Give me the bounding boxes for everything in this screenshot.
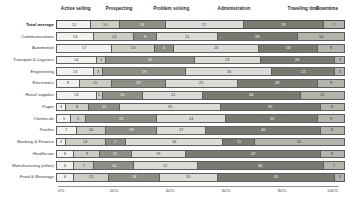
bar-segment-prospecting: 14 (94, 33, 134, 40)
legend-label-downtime: Downtime (316, 6, 338, 12)
segment-value: 2 (99, 93, 101, 97)
bar-segment-traveling-time: 28 (238, 80, 318, 87)
segment-value: 18 (132, 175, 136, 179)
segment-value: 16 (319, 35, 323, 39)
bar-segment-prospecting: 9 (74, 151, 100, 158)
bar-segment-downtime: 15 (301, 92, 344, 99)
bar-segment-prospecting: 12 (74, 174, 108, 181)
chart-row: Automotive1713626188 (0, 42, 345, 54)
bar-segment-active-selling: 17 (57, 45, 112, 52)
x-axis-tick: 60% (222, 188, 231, 193)
bar-segment-traveling-time: 26 (261, 57, 336, 64)
bar-segment-downtime: 8 (321, 127, 344, 134)
bar-segment-administration: 21 (157, 33, 217, 40)
segment-value: 16 (141, 23, 145, 27)
stacked-bar: 381135358 (56, 103, 345, 112)
segment-value: 23 (225, 58, 229, 62)
chart-row: Communications13148212816 (0, 31, 345, 43)
segment-value: 8 (76, 105, 78, 109)
stacked-bar: 552524329 (56, 114, 345, 123)
bar-segment-downtime: 9 (318, 115, 344, 122)
segment-value: 35 (268, 105, 272, 109)
bar-segment-traveling-time: 44 (198, 162, 324, 169)
segment-value: 14 (112, 164, 116, 168)
segment-value: 17 (82, 46, 86, 50)
x-axis-tick: 40% (166, 188, 175, 193)
chart-row: Paper381135358 (0, 101, 345, 113)
segment-value: 14 (75, 58, 79, 62)
bar-segment-administration: 26 (174, 45, 259, 52)
chart-row: Healthcare691119478 (0, 148, 345, 160)
segment-value: 7 (333, 23, 335, 27)
row-label-transport-logistics: Transport & Logistics (0, 57, 56, 63)
legend-label-problem-solving: Problem solving (153, 6, 189, 12)
bar-segment-downtime: 8 (321, 151, 344, 158)
bar-segment-prospecting: 7 (74, 162, 94, 169)
bar-segment-problem-solving: 7 (106, 139, 126, 146)
stacked-bar: 691119478 (56, 150, 345, 159)
bar-segment-administration: 25 (166, 80, 238, 87)
segment-value: 19 (136, 82, 140, 86)
segment-value: 7 (83, 164, 85, 168)
bar-segment-downtime: 3 (335, 68, 344, 75)
row-label-automotive: Automotive (0, 45, 56, 51)
x-axis: 0%20%40%60%80%100% (58, 186, 338, 198)
bar-segment-problem-solving: 31 (106, 57, 195, 64)
bar-segment-downtime: 16 (298, 33, 344, 40)
segment-value: 7 (114, 140, 116, 144)
legend-label-prospecting: Prospecting (106, 6, 133, 12)
segment-value: 41 (274, 175, 278, 179)
segment-value: 24 (189, 117, 193, 121)
chart-row: Manufacturing (other)671422447 (0, 160, 345, 172)
bar-segment-administration: 30 (186, 68, 272, 75)
stacked-bar: 1713626188 (56, 44, 345, 53)
bar-segment-traveling-time: 28 (244, 21, 324, 28)
segment-value: 26 (214, 46, 218, 50)
stacked-bar: 13148212816 (56, 32, 345, 41)
bar-segment-downtime: 8 (321, 104, 344, 111)
chart-row: Food & Beverage6121820413 (0, 172, 345, 184)
bar-segment-problem-solving: 11 (89, 104, 121, 111)
stacked-bar-chart: Active sellingProspectingProblem solving… (0, 0, 345, 203)
row-label-engineering: Engineering (0, 69, 56, 75)
row-label-banking-finance: Banking & Finance (0, 139, 56, 145)
bar-segment-prospecting: 8 (66, 104, 89, 111)
chart-row: Retail supplies14214213415 (0, 89, 345, 101)
segment-value: 10 (89, 129, 93, 133)
bar-segment-downtime: 9 (318, 80, 344, 87)
segment-value: 21 (171, 93, 175, 97)
bar-segment-traveling-time: 41 (218, 174, 336, 181)
bar-segment-active-selling: 3 (57, 104, 66, 111)
segment-value: 8 (330, 46, 332, 50)
segment-value: 13 (73, 70, 77, 74)
segment-value: 8 (331, 129, 333, 133)
segment-value: 13 (131, 46, 135, 50)
row-label-healthcare: Healthcare (0, 151, 56, 157)
bar-segment-problem-solving: 16 (120, 21, 166, 28)
bar-segment-traveling-time: 32 (226, 115, 318, 122)
segment-value: 3 (60, 140, 62, 144)
segment-value: 12 (72, 23, 76, 27)
segment-value: 18 (286, 46, 290, 50)
bar-segment-prospecting: 14 (66, 139, 106, 146)
segment-value: 6 (64, 164, 66, 168)
segment-value: 13 (73, 35, 77, 39)
segment-value: 8 (67, 82, 69, 86)
bar-segment-downtime: 7 (324, 21, 344, 28)
bar-segment-traveling-time: 47 (186, 151, 321, 158)
segment-value: 8 (144, 35, 146, 39)
bar-segment-administration: 17 (157, 127, 206, 134)
row-label-manufacturing-other-: Manufacturing (other) (0, 163, 56, 169)
bar-segment-problem-solving: 18 (106, 127, 158, 134)
x-axis-line (58, 186, 338, 187)
segment-value: 3 (60, 105, 62, 109)
bar-segment-problem-solving: 11 (100, 151, 132, 158)
bar-segment-downtime: 7 (324, 162, 344, 169)
segment-value: 28 (275, 82, 279, 86)
stacked-bar: 1332930223 (56, 67, 345, 76)
segment-value: 14 (120, 93, 124, 97)
segment-value: 18 (129, 129, 133, 133)
segment-value: 28 (281, 23, 285, 27)
row-label-textiles: Textiles (0, 127, 56, 133)
segment-value: 14 (112, 35, 116, 39)
